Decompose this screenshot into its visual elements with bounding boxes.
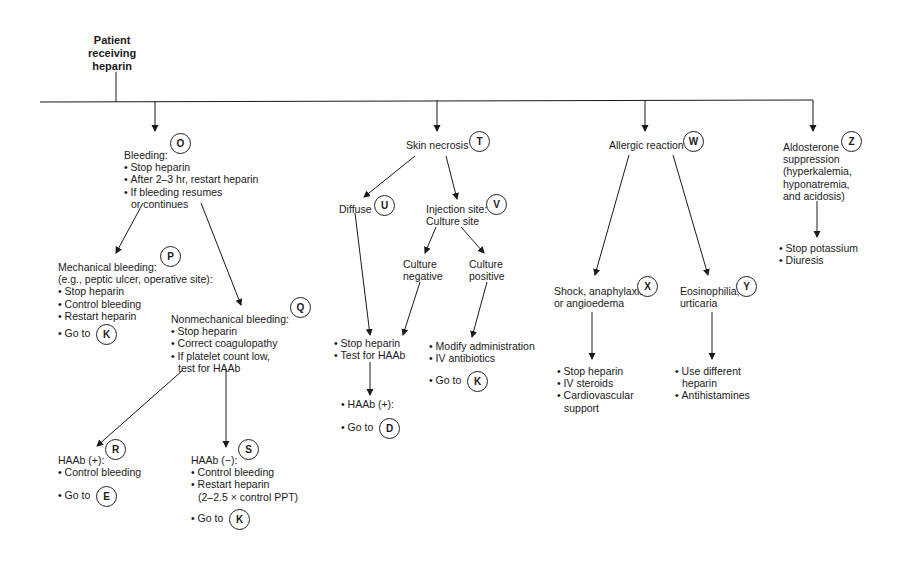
node-aldosterone-suppression: Aldosterone suppression (hyperkalemia, h… (783, 141, 852, 202)
bullet-item: Modify administration (429, 340, 535, 352)
badge-q: Q (290, 297, 311, 318)
goto-label: Go to (191, 512, 223, 524)
badge-s: S (238, 439, 259, 460)
badge-d: D (379, 418, 400, 439)
badge-y: Y (736, 276, 757, 297)
node-title: (hyperkalemia, (783, 165, 852, 177)
badge-o: O (170, 133, 191, 154)
node-title: urticaria (680, 297, 740, 309)
bullet-item: Control bleeding (58, 466, 141, 478)
bullet-item: Stop heparin (124, 161, 258, 173)
badge-e: E (96, 486, 117, 507)
bullet-item: IV antibiotics (429, 352, 535, 364)
bullet-item: If platelet count low, (171, 350, 289, 362)
bullet-continuation: test for HAAb (171, 362, 289, 374)
node-diffuse-result: HAAb (+): (341, 398, 394, 410)
bullet-item: If bleeding resumes (124, 186, 258, 198)
node-title: Mechanical bleeding: (58, 261, 213, 273)
node-haab-positive: HAAb (+): Control bleeding (58, 454, 141, 478)
goto-label: Go to (429, 374, 461, 386)
node-title: HAAb (+): (58, 454, 141, 466)
node-diffuse-action: Stop heparin Test for HAAb (334, 337, 405, 361)
bullet-item: Stop heparin (171, 325, 289, 337)
bullet-continuation: heparin (675, 377, 750, 389)
bullet-item: Test for HAAb (334, 349, 405, 361)
bullet-continuation: or continues (124, 198, 258, 210)
node-allergic-reaction: Allergic reaction (609, 139, 684, 151)
bullet-item: Diuresis (779, 254, 858, 266)
node-diffuse: Diffuse (339, 203, 372, 215)
goto-k-haab-negative: Go to K (191, 508, 250, 530)
goto-k-culture-positive: Go to K (429, 370, 488, 392)
node-culture-positive-action: Modify administration IV antibiotics (429, 340, 535, 364)
bullet-item: Cardiovascular (557, 389, 634, 401)
node-title: positive (469, 270, 505, 282)
node-title: Culture (469, 258, 505, 270)
node-title: Skin necrosis (406, 139, 468, 151)
node-title: Shock, anaphylaxis, (554, 285, 647, 297)
goto-d: Go to D (341, 417, 400, 439)
node-title: Bleeding: (124, 149, 258, 161)
node-shock-action: Stop heparin IV steroids Cardiovascular … (557, 365, 634, 414)
bullet-continuation: (2–2.5 × control PPT) (191, 491, 298, 503)
badge-z: Z (841, 131, 862, 152)
bullet-item: After 2–3 hr, restart heparin (124, 173, 258, 185)
root-title-line: heparin (88, 60, 136, 73)
bullet-item: HAAb (+): (341, 398, 394, 410)
badge-k: K (96, 324, 117, 345)
goto-e: Go to E (58, 485, 117, 507)
bullet-item: Use different (675, 365, 750, 377)
node-skin-necrosis: Skin necrosis (406, 139, 468, 151)
node-subtitle: (e.g., peptic ulcer, operative site): (58, 273, 213, 285)
bullet-item: Antihistamines (675, 389, 750, 401)
root-title-line: Patient (88, 34, 136, 47)
node-title: negative (403, 270, 443, 282)
bullet-item: Control bleeding (191, 466, 298, 478)
node-eosinophilia-urticaria: Eosinophilia, urticaria (680, 285, 740, 309)
node-title: suppression (783, 153, 852, 165)
badge-r: R (105, 439, 126, 460)
bullet-item: Control bleeding (58, 298, 213, 310)
goto-label: Go to (58, 489, 90, 501)
badge-v: V (486, 194, 507, 215)
bullet-item: Stop potassium (779, 242, 858, 254)
node-nonmechanical-bleeding: Nonmechanical bleeding: Stop heparin Cor… (171, 313, 289, 374)
bullet-item: Stop heparin (557, 365, 634, 377)
bullet-continuation: support (557, 402, 634, 414)
badge-w: W (683, 131, 704, 152)
node-title: Eosinophilia, (680, 285, 740, 297)
badge-t: T (469, 131, 490, 152)
node-title: Injection site: (426, 203, 487, 215)
node-title: and acidosis) (783, 190, 852, 202)
node-aldosterone-action: Stop potassium Diuresis (779, 242, 858, 266)
node-bleeding: Bleeding: Stop heparin After 2–3 hr, res… (124, 149, 258, 210)
node-title: Diffuse (339, 203, 372, 215)
bullet-item: Stop heparin (334, 337, 405, 349)
root-node-patient-receiving-heparin: Patient receiving heparin (88, 34, 136, 73)
node-title: Nonmechanical bleeding: (171, 313, 289, 325)
node-title: hyponatremia, (783, 178, 852, 190)
node-title: or angioedema (554, 297, 647, 309)
node-title: Allergic reaction (609, 139, 684, 151)
bullet-item: Stop heparin (58, 285, 213, 297)
goto-label: Go to (58, 327, 90, 339)
node-shock-anaphylaxis: Shock, anaphylaxis, or angioedema (554, 285, 647, 309)
badge-p: P (160, 246, 181, 267)
goto-label: Go to (341, 421, 373, 433)
bullet-item: Correct coagulopathy (171, 337, 289, 349)
badge-k: K (229, 509, 250, 530)
node-title: Culture (403, 258, 443, 270)
root-title-line: receiving (88, 47, 136, 60)
node-eosinophilia-action: Use different heparin Antihistamines (675, 365, 750, 402)
badge-u: U (374, 195, 395, 216)
heparin-complication-flowchart: Patient receiving heparin Bleeding: Stop… (0, 0, 902, 562)
bullet-item: Restart heparin (191, 478, 298, 490)
badge-x: X (637, 276, 658, 297)
node-injection-site: Injection site: Culture site (426, 203, 487, 227)
badge-k: K (467, 371, 488, 392)
node-title: Culture site (426, 215, 487, 227)
node-culture-negative: Culture negative (403, 258, 443, 282)
node-culture-positive: Culture positive (469, 258, 505, 282)
goto-k-mechanical: Go to K (58, 323, 117, 345)
bullet-item: IV steroids (557, 377, 634, 389)
